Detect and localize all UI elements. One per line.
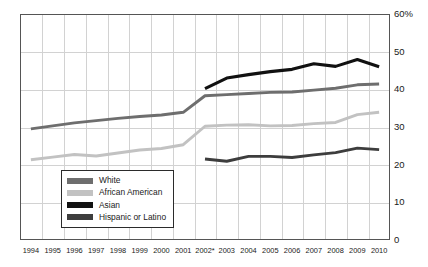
- legend-label-asian: Asian: [99, 201, 120, 210]
- y-axis-tick-label: 50: [394, 47, 405, 57]
- legend-label-white: White: [99, 176, 120, 185]
- chart-legend: White African American Asian Hispanic or…: [61, 170, 174, 228]
- gridline-vertical: [195, 15, 196, 239]
- y-axis-tick-label: 30: [394, 122, 405, 132]
- gridline-horizontal: [21, 165, 389, 166]
- x-axis-tick-label: 2006: [284, 246, 300, 255]
- gridline-vertical: [42, 15, 43, 239]
- x-axis-tick-label: 1999: [131, 246, 147, 255]
- legend-swatch-white: [67, 178, 93, 184]
- chart-container: White African American Asian Hispanic or…: [0, 0, 428, 267]
- legend-item-white[interactable]: White: [67, 175, 168, 186]
- y-axis-tick-label: 10: [394, 197, 405, 207]
- gridline-vertical: [238, 15, 239, 239]
- legend-item-asian[interactable]: Asian: [67, 200, 168, 211]
- x-axis-tick-label: 1997: [88, 246, 104, 255]
- gridline-vertical: [347, 15, 348, 239]
- gridline-vertical: [325, 15, 326, 239]
- x-axis-tick-label: 2003: [219, 246, 235, 255]
- x-axis-tick-label: 2005: [262, 246, 278, 255]
- legend-item-hispanic-or-latino[interactable]: Hispanic or Latino: [67, 212, 168, 223]
- legend-swatch-hispanic-or-latino: [67, 214, 93, 220]
- legend-swatch-african-american: [67, 190, 93, 196]
- y-axis-tick-label: 40: [394, 84, 405, 94]
- x-axis-tick-label: 2008: [327, 246, 343, 255]
- gridline-vertical: [369, 15, 370, 239]
- gridline-vertical: [303, 15, 304, 239]
- gridline-vertical: [260, 15, 261, 239]
- x-axis-tick-label: 1995: [44, 246, 60, 255]
- y-axis-tick-label: 0: [394, 235, 399, 245]
- legend-label-hispanic-or-latino: Hispanic or Latino: [99, 213, 166, 222]
- legend-label-african-american: African American: [99, 188, 162, 197]
- x-axis-tick-label: 2009: [349, 246, 365, 255]
- y-axis-tick-label: 60%: [394, 9, 413, 19]
- x-axis-tick-label: 2002*: [195, 246, 214, 255]
- x-axis-tick-label: 2010: [371, 246, 387, 255]
- x-axis-tick-label: 2000: [153, 246, 169, 255]
- corner-artifact: [4, 1, 18, 7]
- x-axis-tick-label: 2004: [240, 246, 256, 255]
- legend-item-african-american[interactable]: African American: [67, 187, 168, 198]
- y-axis-tick-label: 20: [394, 160, 405, 170]
- legend-swatch-asian: [67, 202, 93, 208]
- x-axis-tick-label: 1998: [110, 246, 126, 255]
- x-axis-tick-label: 1996: [66, 246, 82, 255]
- x-axis-tick-label: 2001: [175, 246, 191, 255]
- gridline-horizontal: [21, 90, 389, 91]
- gridline-horizontal: [21, 52, 389, 53]
- gridline-vertical: [282, 15, 283, 239]
- x-axis-tick-label: 2007: [306, 246, 322, 255]
- x-axis-tick-label: 1994: [23, 246, 39, 255]
- gridline-horizontal: [21, 128, 389, 129]
- gridline-vertical: [216, 15, 217, 239]
